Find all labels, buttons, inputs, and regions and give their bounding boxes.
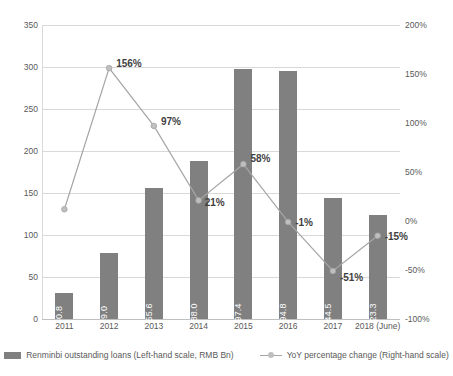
- left-axis-tick-label: 300: [0, 63, 38, 72]
- left-axis-tick-label: 0: [0, 315, 38, 324]
- line-marker: [196, 198, 202, 204]
- line-value-label: 97%: [161, 117, 181, 127]
- line-path: [64, 68, 377, 271]
- right-axis-tick-label: 200%: [405, 21, 427, 30]
- legend-item[interactable]: YoY percentage change (Right-hand scale): [260, 350, 449, 360]
- right-axis-tick-label: -100%: [405, 315, 430, 324]
- right-axis-tick-label: 150%: [405, 70, 427, 79]
- line-marker: [241, 161, 247, 167]
- line-value-label: 156%: [116, 59, 142, 69]
- legend-bar-swatch-icon: [4, 352, 21, 359]
- plot-area: 30.879.0155.6188.0297.4294.8144.5123.3 1…: [42, 25, 400, 319]
- line-marker: [106, 65, 112, 71]
- combo-chart: 050100150200250300350 -100%-50%0%50%100%…: [0, 0, 453, 376]
- line-value-label: 58%: [250, 154, 270, 164]
- x-axis-tick-label: 2015: [234, 322, 253, 331]
- x-axis-tick-label: 2018 (June): [355, 322, 400, 331]
- line-value-label: -51%: [340, 273, 363, 283]
- right-axis-tick-label: 100%: [405, 119, 427, 128]
- line-marker: [330, 268, 336, 274]
- left-axis-tick-label: 250: [0, 105, 38, 114]
- x-axis-tick-label: 2014: [189, 322, 208, 331]
- chart-legend: Renminbi outstanding loans (Left-hand sc…: [0, 350, 453, 360]
- x-axis-tick-label: 2011: [55, 322, 73, 331]
- legend-item-label: YoY percentage change (Right-hand scale): [287, 350, 449, 360]
- left-axis-tick-label: 350: [0, 21, 38, 30]
- line-value-label: 21%: [205, 198, 225, 208]
- left-axis-tick-label: 50: [0, 273, 38, 282]
- line-value-label: -15%: [385, 232, 408, 242]
- line-value-label: -1%: [295, 218, 313, 228]
- left-axis-tick-label: 150: [0, 189, 38, 198]
- right-axis-tick-label: 50%: [405, 168, 422, 177]
- right-axis-tick-label: -50%: [405, 266, 425, 275]
- x-axis-tick-label: 2013: [144, 322, 163, 331]
- line-marker: [375, 233, 381, 239]
- left-axis-tick-label: 100: [0, 231, 38, 240]
- x-axis-tick-label: 2017: [323, 322, 342, 331]
- legend-item[interactable]: Renminbi outstanding loans (Left-hand sc…: [4, 350, 233, 360]
- left-axis-tick-label: 200: [0, 147, 38, 156]
- gridline: [42, 319, 400, 320]
- line-marker: [285, 219, 291, 225]
- legend-item-label: Renminbi outstanding loans (Left-hand sc…: [26, 350, 233, 360]
- x-axis-tick-label: 2012: [100, 322, 119, 331]
- line-marker: [62, 206, 68, 212]
- line-marker: [151, 123, 157, 129]
- x-axis-tick-label: 2016: [279, 322, 298, 331]
- right-axis-tick-label: 0%: [405, 217, 417, 226]
- legend-line-swatch-icon: [260, 351, 282, 359]
- x-axis-labels: 20112012201320142015201620172018 (June): [42, 322, 400, 340]
